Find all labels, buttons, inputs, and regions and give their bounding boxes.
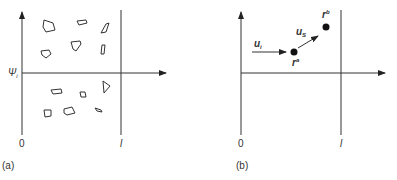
origin-label-b: 0 [238, 138, 244, 149]
panel-label-a: (a) [2, 160, 14, 171]
origin-label-a: 0 [19, 138, 25, 149]
panel-b: ui uS ra rb 0 l (b) [236, 9, 385, 171]
figure: Ψi 0 l (a) ui uS ra rb 0 l (b) [0, 0, 397, 180]
u-s-label: uS [296, 26, 306, 38]
y-axis-label-a: Ψi [8, 67, 18, 79]
x-end-label-a: l [120, 138, 123, 149]
u-i-label: ui [254, 38, 262, 50]
x-end-label-b: l [340, 138, 343, 149]
r-b-label: rb [322, 9, 330, 20]
point-rb [323, 24, 330, 31]
panel-label-b: (b) [236, 160, 248, 171]
point-ra [291, 49, 298, 56]
r-a-label: ra [292, 57, 300, 68]
particles [41, 20, 110, 117]
scattered-velocity-arrow [298, 36, 318, 48]
panel-a: Ψi 0 l (a) [2, 10, 166, 171]
